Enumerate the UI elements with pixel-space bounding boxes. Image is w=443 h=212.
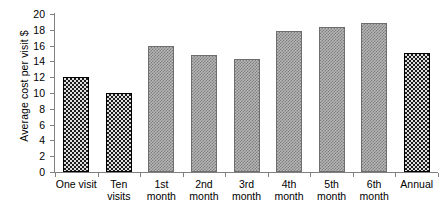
x-axis-line [54,172,438,173]
y-axis-tick-label: 0 [5,167,45,177]
x-axis-label-line: 2nd [183,179,226,191]
bar-4th-month [276,31,302,172]
x-axis-tick [98,173,99,177]
x-axis-tick [395,173,396,177]
x-axis-label-line: 4th [268,179,311,191]
bar-3rd-month [234,59,260,172]
y-axis-tick-label: 6 [5,120,45,130]
y-axis-tick-label: 2 [5,151,45,161]
x-axis-tick [140,173,141,177]
x-axis-label-line: month [140,191,183,203]
x-axis-tick [438,173,439,177]
x-axis-tick [55,173,56,177]
y-axis-tick-label: 8 [5,104,45,114]
x-axis-label-line: 1st [140,179,183,191]
bar-1st-month [148,46,174,172]
x-axis-label-line: month [353,191,396,203]
y-axis-tick-label: 20 [5,9,45,19]
y-axis-tick [50,30,55,31]
x-axis-tick [310,173,311,177]
y-axis-tick [50,46,55,47]
y-axis-tick [50,77,55,78]
x-axis-label: 5thmonth [310,179,353,202]
y-axis-tick-label: 18 [5,25,45,35]
y-axis-tick [50,61,55,62]
y-axis-tick [50,140,55,141]
x-axis-label: 1stmonth [140,179,183,202]
bar-2nd-month [191,55,217,172]
bar-ten-visits [106,93,132,172]
bar-5th-month [319,27,345,172]
bar-6th-month [361,23,387,172]
x-axis-label-line: Annual [395,179,438,191]
x-axis-label-line: month [268,191,311,203]
x-axis-label: 3rdmonth [225,179,268,202]
x-axis-tick [353,173,354,177]
bar-one-visit [63,77,89,172]
x-axis-label-line: month [183,191,226,203]
y-axis-tick-label: 14 [5,56,45,66]
x-axis-label-line: month [310,191,353,203]
x-axis-label: 6thmonth [353,179,396,202]
x-axis-tick [268,173,269,177]
x-axis-label: 2ndmonth [183,179,226,202]
y-axis-tick [50,14,55,15]
y-axis-tick [50,109,55,110]
x-axis-tick [183,173,184,177]
y-axis-tick [50,125,55,126]
x-axis-label: One visit [55,179,98,191]
x-axis-tick [225,173,226,177]
x-axis-label: Ten visits [98,179,141,202]
x-axis-label-line: month [225,191,268,203]
y-axis-tick-label: 10 [5,88,45,98]
x-axis-label-line: 5th [310,179,353,191]
x-axis-label: 4thmonth [268,179,311,202]
bar-annual [404,53,430,172]
y-axis-tick [50,93,55,94]
y-axis-tick-label: 12 [5,72,45,82]
x-axis-label-line: 6th [353,179,396,191]
x-axis-label-line: One visit [55,179,98,191]
y-axis-tick-label: 4 [5,135,45,145]
y-axis-tick-label: 16 [5,41,45,51]
x-axis-label-line: Ten visits [98,179,141,202]
x-axis-label: Annual [395,179,438,191]
bar-chart: Average cost per visit $ 201816141210864… [0,0,443,212]
y-axis-tick [50,156,55,157]
x-axis-label-line: 3rd [225,179,268,191]
